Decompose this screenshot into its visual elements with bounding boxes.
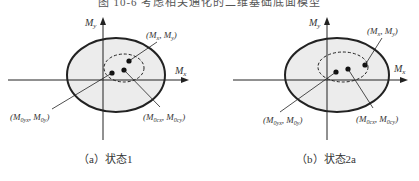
label-origin-shift: (M0yx, M0y) xyxy=(10,112,50,123)
outer-ellipse xyxy=(67,38,165,112)
x-axis-label: Mx xyxy=(393,63,406,76)
y-axis-arrow-icon xyxy=(324,17,330,25)
outer-ellipse xyxy=(285,38,389,112)
diagram-canvas: My Mx (Mx, My) (M0yx, M0y) (M0cx, M0cy) … xyxy=(0,0,419,181)
x-axis-label: Mx xyxy=(174,65,187,78)
panel-a: My Mx (Mx, My) (M0yx, M0y) (M0cx, M0cy) xyxy=(8,17,189,140)
label-load: (Mx, My) xyxy=(146,30,177,41)
label-load: (Mx, My) xyxy=(367,26,398,37)
y-axis-arrow-icon xyxy=(100,17,106,25)
y-axis-label: My xyxy=(308,17,321,30)
label-origin-shift: (M0yx, M0y) xyxy=(263,115,303,126)
panel-a-caption: （a）状态1 xyxy=(78,150,132,166)
panel-b-caption: （b）状态2a xyxy=(296,150,356,166)
y-axis-label: My xyxy=(84,17,97,30)
panel-b: My Mx (Mx, My) (M0yx, M0y) (M0cx, M0cy) xyxy=(233,17,408,140)
x-axis-arrow-icon xyxy=(400,77,408,83)
label-center: (M0cx, M0cy) xyxy=(356,114,398,125)
label-center: (M0cx, M0cy) xyxy=(143,112,185,123)
